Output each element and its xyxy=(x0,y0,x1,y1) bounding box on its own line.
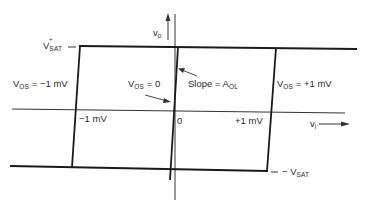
horizontal-axis xyxy=(12,109,345,113)
positive-saturation-line xyxy=(79,46,357,49)
tick-label-minus-1mv: −1 mV xyxy=(79,114,107,124)
vsat-pos-main: V+ xyxy=(43,41,49,51)
tick-label-plus-1mv: +1 mV xyxy=(235,116,263,126)
vos-minus-1mv-label: VOS = −1 mV xyxy=(13,79,68,91)
slope-pointer-head xyxy=(178,68,185,73)
vos-zero-label: VOS = 0 xyxy=(128,79,160,91)
vos-plus-1mv-label: VOS = +1 mV xyxy=(277,79,332,91)
slope-pointer xyxy=(182,70,197,76)
slope-text: Slope = A xyxy=(188,78,229,89)
slope-sub: OL xyxy=(229,83,238,90)
transfer-curve-diagram xyxy=(0,0,365,207)
vsat-pos-sub: SAT xyxy=(49,45,62,52)
vos-0-sub: OS xyxy=(134,83,144,90)
vo-axis-label: vo xyxy=(153,28,162,40)
vos-0-rest: = 0 xyxy=(144,78,160,89)
vo-arrow-head xyxy=(166,13,171,21)
vo-label-sub: o xyxy=(158,32,162,39)
slope-label: Slope = AOL xyxy=(188,79,238,91)
vos-zero-pointer-head xyxy=(163,98,171,103)
vsat-neg-sub: SAT xyxy=(297,171,310,178)
vi-arrow-head xyxy=(341,122,350,127)
negative-saturation-label: − VSAT xyxy=(282,167,309,179)
curve-vos-zero xyxy=(170,47,178,180)
vi-label-sub: i xyxy=(315,123,317,130)
tick-label-zero: 0 xyxy=(177,116,182,126)
positive-saturation-label: V+ SAT xyxy=(43,41,62,53)
vos-p1-sub: OS xyxy=(283,83,293,90)
vos-p1-rest: = +1 mV xyxy=(293,78,332,89)
curve-vos-plus-1mv xyxy=(267,48,276,171)
vos-m1-rest: = −1 mV xyxy=(29,78,68,89)
vsat-pos-sup: + xyxy=(49,36,53,42)
vi-axis-label: vi xyxy=(310,119,316,131)
curve-vos-minus-1mv xyxy=(72,46,80,167)
vsat-neg-main: − V xyxy=(282,166,297,177)
vos-m1-sub: OS xyxy=(19,83,29,90)
negative-saturation-line xyxy=(10,166,268,171)
